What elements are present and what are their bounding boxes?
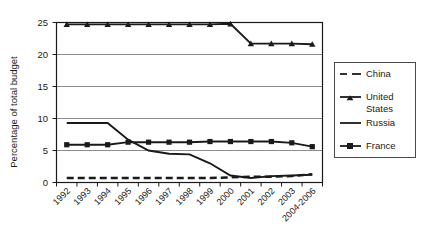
- square-marker-icon: [248, 139, 253, 144]
- y-tick-label: 25: [37, 17, 48, 28]
- legend-label-united: United: [366, 91, 393, 102]
- square-marker-icon: [64, 142, 69, 147]
- y-axis-title: Percentage of total budget: [8, 56, 19, 168]
- chart-legend: China United States Russia France: [335, 63, 416, 158]
- y-axis-title-text: Percentage of total budget: [8, 56, 19, 168]
- square-marker-icon: [105, 142, 110, 147]
- legend-label-france: France: [366, 140, 396, 151]
- square-marker-icon: [166, 140, 171, 145]
- legend-label-china: China: [366, 68, 392, 79]
- square-marker-icon: [187, 140, 192, 145]
- square-marker-icon: [310, 144, 315, 149]
- line-chart: Percentage of total budget 0510152025 19…: [0, 0, 424, 248]
- square-marker-icon: [269, 139, 274, 144]
- chart-figure: Percentage of total budget 0510152025 19…: [0, 0, 424, 248]
- legend-label-russia: Russia: [366, 117, 396, 128]
- square-marker-icon: [207, 139, 212, 144]
- square-marker-icon: [146, 140, 151, 145]
- square-marker-icon: [228, 139, 233, 144]
- y-tick-label: 10: [37, 113, 48, 124]
- y-tick-label: 20: [37, 49, 48, 60]
- square-marker-icon: [126, 140, 131, 145]
- legend-label-states: States: [366, 103, 393, 114]
- y-tick-label: 5: [43, 145, 48, 156]
- square-marker-icon: [85, 142, 90, 147]
- square-marker-icon: [289, 140, 294, 145]
- y-tick-label: 0: [43, 177, 48, 188]
- y-tick-label: 15: [37, 81, 48, 92]
- square-marker-icon: [347, 143, 353, 149]
